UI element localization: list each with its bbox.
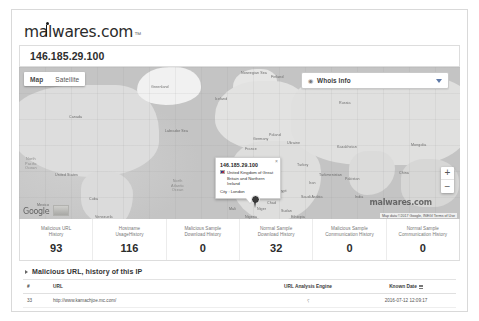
map-label: Saudi Arabia — [301, 195, 323, 199]
caret-right-icon[interactable] — [25, 270, 28, 274]
map-type-map[interactable]: Map — [24, 72, 49, 86]
stat-label: Malicious URLHistory — [41, 226, 71, 238]
zoom-in-button[interactable]: + — [441, 167, 454, 180]
map-label: Pakistan — [345, 177, 360, 181]
geolocation-map[interactable]: GreenlandIcelandFinlandNorwegian SeaCana… — [19, 67, 460, 219]
map-label: Greenland — [151, 85, 169, 89]
map-ocean-label: NorthPacificOcean — [25, 157, 37, 171]
map-label: Iran — [309, 181, 316, 185]
whois-selected-label: Whois Info — [317, 77, 351, 84]
map-label: Poland — [269, 133, 281, 137]
map-label: United States — [55, 173, 78, 177]
map-type-satellite[interactable]: Satellite — [49, 72, 85, 86]
stat-label: Normal SampleDownload History — [258, 226, 295, 238]
stat-card[interactable]: Normal SampleCommunication History0 — [387, 219, 459, 260]
cell-known-date: 2016-07-12 12:09:17 — [360, 298, 452, 303]
stat-card[interactable]: HostnameUsageHistory116 — [93, 219, 166, 260]
table-body: 33http://www.kamachjoe.mc.com/⸮2016-07-1… — [23, 294, 456, 308]
map-label: Kazakhstan — [337, 145, 357, 149]
map-label: Ukraine — [287, 141, 300, 145]
section-header-malicious-url-history[interactable]: Malicious URL, history of this IP — [19, 264, 460, 279]
map-label: Norwegian Sea — [241, 71, 267, 75]
section-title: Malicious URL, history of this IP — [32, 268, 142, 275]
stat-value: 0 — [420, 242, 426, 254]
logo-pin-icon — [46, 22, 49, 35]
cell-engine: ⸮ — [256, 298, 360, 304]
globe-icon: ◉ — [308, 78, 313, 84]
stat-value: 32 — [270, 242, 282, 254]
map-label: Turkmenistan — [319, 173, 342, 177]
cell-num: 33 — [27, 298, 53, 303]
map-type-control[interactable]: Map Satellite — [24, 72, 85, 86]
cell-url[interactable]: http://www.kamachjoe.mc.com/ — [53, 298, 256, 303]
street-view-thumbnail[interactable] — [53, 205, 69, 216]
map-label: Chad — [267, 201, 276, 205]
stat-card[interactable]: Malicious SampleCommunication History0 — [313, 219, 386, 260]
map-label: Labrador Sea — [165, 129, 188, 133]
trademark-symbol: ™ — [134, 31, 141, 38]
close-icon[interactable]: × — [275, 159, 278, 164]
map-label: India — [355, 195, 363, 199]
column-header-num[interactable]: # — [27, 284, 53, 289]
stat-value: 93 — [50, 242, 62, 254]
ip-header-panel: 146.185.29.100 — [19, 45, 460, 67]
map-label: Turkey — [297, 163, 308, 167]
column-header-known-date-label: Known Date — [389, 284, 417, 289]
map-label: Mali — [229, 207, 236, 211]
sort-icon[interactable] — [419, 285, 423, 289]
map-label: Sudan — [281, 209, 292, 213]
column-header-engine[interactable]: URL Analysis Engine — [256, 284, 360, 289]
column-header-known-date[interactable]: Known Date — [360, 284, 452, 289]
map-info-bubble: × 146.185.29.100 United Kingdom of Great… — [215, 157, 281, 199]
statistics-row: Malicious URLHistory93HostnameUsageHisto… — [19, 219, 460, 261]
stat-label: Malicious SampleDownload History — [184, 226, 221, 238]
map-label: Germany — [253, 137, 268, 141]
bubble-city: City : London — [220, 189, 276, 194]
site-logo[interactable]: malwares.com ™ — [24, 23, 141, 43]
stat-card[interactable]: Malicious URLHistory93 — [20, 219, 93, 260]
map-label: Iceland — [215, 97, 227, 101]
map-attribution[interactable]: Map data ©2017 Google, INEGI Terms of Us… — [380, 213, 457, 218]
map-label: Finland — [271, 75, 284, 79]
map-zoom-control[interactable]: + − — [441, 167, 454, 193]
stat-label: Malicious SampleCommunication History — [325, 226, 374, 238]
stat-value: 0 — [200, 242, 206, 254]
stat-label: Normal SampleCommunication History — [399, 226, 448, 238]
map-ocean-label: NorthAtlanticOcean — [171, 179, 184, 193]
stat-label: HostnameUsageHistory — [115, 226, 143, 238]
stat-value: 116 — [121, 242, 139, 254]
bubble-country-row: United Kingdom of Great Britain and Nort… — [220, 170, 276, 187]
column-header-url[interactable]: URL — [53, 284, 256, 289]
page-title: 146.185.29.100 — [30, 50, 104, 62]
page-root: malwares.com ™ 146.185.29.100 GreenlandI… — [0, 0, 479, 321]
pin-tip — [254, 202, 256, 208]
stat-value: 0 — [346, 242, 352, 254]
site-logo-text: malwares.com — [24, 23, 133, 41]
map-watermark: malwares.com — [369, 198, 432, 207]
map-label: Russia — [339, 101, 351, 105]
uk-flag-icon — [220, 170, 225, 174]
zoom-out-button[interactable]: − — [441, 180, 454, 193]
stat-card[interactable]: Malicious SampleDownload History0 — [167, 219, 240, 260]
page-bottom-strip — [11, 312, 468, 321]
malicious-url-table: # URL URL Analysis Engine Known Date 33h… — [23, 279, 456, 307]
bubble-country: United Kingdom of Great Britain and Nort… — [227, 170, 276, 187]
bubble-ip: 146.185.29.100 — [220, 162, 276, 168]
google-logo: Google — [23, 207, 49, 216]
chevron-down-icon[interactable] — [436, 79, 442, 83]
map-label: China — [399, 171, 409, 175]
stat-card[interactable]: Normal SampleDownload History32 — [240, 219, 313, 260]
engine-mark-icon: ⸮ — [307, 298, 310, 304]
map-label: Canada — [69, 115, 82, 119]
map-label: Cuba — [89, 197, 98, 201]
map-label: France — [245, 147, 257, 151]
table-row[interactable]: 33http://www.kamachjoe.mc.com/⸮2016-07-1… — [23, 294, 456, 308]
whois-info-select[interactable]: ◉ Whois Info — [301, 72, 449, 89]
map-label: Mongolia — [411, 143, 426, 147]
table-header-row: # URL URL Analysis Engine Known Date — [23, 280, 456, 294]
location-pin-icon[interactable] — [251, 195, 260, 208]
